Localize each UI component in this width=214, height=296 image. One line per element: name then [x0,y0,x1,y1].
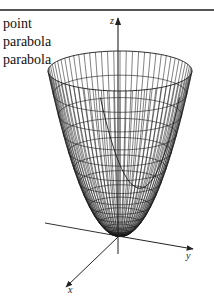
y-axis [118,236,193,249]
paraboloid-figure [0,0,214,296]
z-axis-label: z [110,15,114,26]
x-axis [66,237,118,287]
x-axis-label: x [68,284,72,295]
paraboloid-mesh [48,51,192,237]
y-axis-label: y [186,250,190,261]
